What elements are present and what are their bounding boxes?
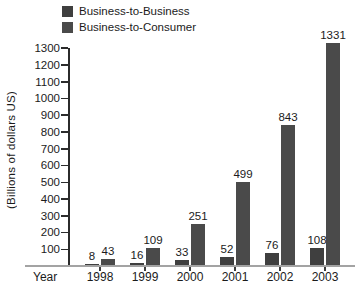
bar-group-1998: 843 — [85, 246, 115, 266]
x-axis-title: Year — [33, 271, 57, 284]
y-tick — [61, 131, 68, 133]
bar-value-label: 108 — [307, 235, 326, 246]
y-tick — [61, 182, 68, 184]
bar-group-1999: 16109 — [130, 235, 160, 266]
x-tick-label-2002: 2002 — [267, 271, 294, 284]
bar-value-label: 843 — [278, 112, 297, 123]
legend: Business-to-Business Business-to-Consume… — [62, 5, 196, 34]
bar-b2c-1998: 43 — [101, 246, 115, 266]
y-tick — [61, 215, 68, 217]
bar-b2b-2000: 33 — [175, 247, 189, 266]
bar — [281, 125, 295, 266]
bar-value-label: 499 — [233, 169, 252, 180]
y-tick — [61, 114, 68, 116]
chart-figure: Business-to-Business Business-to-Consume… — [0, 0, 355, 292]
bar — [326, 43, 340, 266]
y-tick-label: 200 — [16, 226, 60, 238]
bar — [191, 224, 205, 266]
y-axis-line — [68, 48, 70, 266]
y-tick-label: 1000 — [16, 92, 60, 104]
y-tick-label: 1200 — [16, 59, 60, 71]
bar-value-label: 109 — [143, 235, 162, 246]
y-tick — [61, 81, 68, 83]
y-tick-label: 600 — [16, 159, 60, 171]
bar-value-label: 43 — [102, 246, 115, 257]
bar-b2c-2003: 1331 — [326, 30, 340, 266]
x-tick-label-2003: 2003 — [312, 271, 339, 284]
bar-b2c-2002: 843 — [281, 112, 295, 266]
legend-item-b2c: Business-to-Consumer — [62, 21, 196, 34]
bar-group-2002: 76843 — [265, 112, 295, 266]
legend-swatch-b2b-icon — [62, 6, 73, 17]
x-tick-label-1998: 1998 — [87, 271, 114, 284]
bar — [310, 248, 324, 266]
y-tick-label: 1300 — [16, 42, 60, 54]
legend-item-b2b: Business-to-Business — [62, 5, 196, 18]
legend-swatch-b2c-icon — [62, 22, 73, 33]
bar-value-label: 251 — [188, 211, 207, 222]
y-tick — [61, 249, 68, 251]
y-tick — [61, 98, 68, 100]
bar-group-2000: 33251 — [175, 211, 205, 266]
y-tick — [61, 198, 68, 200]
bar-b2c-2000: 251 — [191, 211, 205, 266]
legend-label-b2c: Business-to-Consumer — [79, 21, 196, 34]
bar-b2b-1999: 16 — [130, 250, 144, 266]
y-tick-label: 500 — [16, 176, 60, 188]
bar-value-label: 76 — [266, 240, 279, 251]
bar-b2c-1999: 109 — [146, 235, 160, 266]
y-tick-label: 300 — [16, 210, 60, 222]
bar-b2b-2001: 52 — [220, 244, 234, 266]
bar-b2b-1998: 8 — [85, 251, 99, 266]
bar — [236, 182, 250, 266]
y-tick-label: 800 — [16, 126, 60, 138]
y-tick-label: 1100 — [16, 76, 60, 88]
y-tick-label: 700 — [16, 143, 60, 155]
bar-b2b-2002: 76 — [265, 240, 279, 266]
x-tick-label-1999: 1999 — [132, 271, 159, 284]
x-tick-label-2001: 2001 — [222, 271, 249, 284]
plot-area: 1002003004005006007008009001000110012001… — [68, 48, 355, 266]
bar — [146, 248, 160, 266]
y-tick — [61, 64, 68, 66]
bar-value-label: 8 — [89, 251, 95, 262]
y-tick-label: 100 — [16, 243, 60, 255]
bar-group-2001: 52499 — [220, 169, 250, 266]
y-tick-label: 900 — [16, 109, 60, 121]
y-tick — [61, 148, 68, 150]
y-tick — [61, 232, 68, 234]
bar-value-label: 33 — [176, 247, 189, 258]
legend-label-b2b: Business-to-Business — [79, 5, 190, 18]
y-tick — [61, 47, 68, 49]
x-tick-label-2000: 2000 — [177, 271, 204, 284]
y-tick-label: 400 — [16, 193, 60, 205]
bar-b2c-2001: 499 — [236, 169, 250, 266]
bar-value-label: 1331 — [320, 30, 346, 41]
bar-value-label: 16 — [131, 250, 144, 261]
bar-value-label: 52 — [221, 244, 234, 255]
bar-group-2003: 1081331 — [310, 30, 340, 266]
bar-b2b-2003: 108 — [310, 235, 324, 266]
y-tick — [61, 165, 68, 167]
